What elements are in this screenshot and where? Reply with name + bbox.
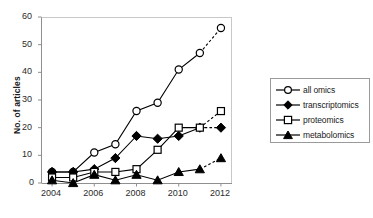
filled-diamond-marker-icon bbox=[275, 98, 301, 112]
open-square-marker-icon bbox=[275, 113, 301, 127]
data-point-marker bbox=[154, 146, 161, 153]
legend-item-transcriptomics[interactable]: transcriptomics bbox=[275, 97, 369, 112]
data-point-marker bbox=[217, 24, 224, 31]
data-point-marker bbox=[175, 124, 182, 131]
y-axis-title: No. of articles bbox=[12, 76, 22, 134]
plot-axes bbox=[42, 17, 233, 184]
x-tick-label: 2012 bbox=[210, 188, 230, 198]
data-point-marker bbox=[196, 49, 203, 56]
caption-strip bbox=[0, 210, 373, 218]
legend-label: all omics bbox=[303, 85, 335, 95]
data-point-marker bbox=[91, 149, 98, 156]
filled-triangle-marker-icon bbox=[275, 128, 301, 142]
data-series-group bbox=[47, 24, 225, 186]
legend-label: proteomics bbox=[303, 115, 344, 125]
y-tick-label: 40 bbox=[22, 66, 32, 76]
open-circle-marker-icon bbox=[275, 83, 301, 97]
y-tick-label: 20 bbox=[22, 122, 32, 132]
data-point-marker bbox=[216, 123, 225, 132]
legend-item-proteomics[interactable]: proteomics bbox=[275, 112, 369, 127]
x-tick-label: 2004 bbox=[41, 188, 61, 198]
x-tick-label: 2010 bbox=[168, 188, 188, 198]
y-axis-ticks bbox=[38, 17, 42, 183]
y-tick-label: 10 bbox=[22, 149, 32, 159]
chart-legend: all omics transcriptomics proteomics met… bbox=[270, 78, 370, 143]
data-point-marker bbox=[154, 99, 161, 106]
data-point-marker bbox=[112, 141, 119, 148]
x-tick-label: 2008 bbox=[126, 188, 146, 198]
legend-item-metabolomics[interactable]: metabolomics bbox=[275, 127, 369, 142]
y-tick-label: 30 bbox=[22, 94, 32, 104]
data-point-marker bbox=[153, 134, 162, 143]
data-point-marker bbox=[133, 107, 140, 114]
data-point-marker bbox=[175, 66, 182, 73]
data-point-marker bbox=[174, 131, 183, 140]
legend-label: transcriptomics bbox=[303, 100, 359, 110]
legend-label: metabolomics bbox=[303, 130, 354, 140]
data-point-marker bbox=[217, 108, 224, 115]
y-tick-label: 0 bbox=[29, 177, 34, 187]
y-tick-label: 50 bbox=[22, 39, 32, 49]
series-all-omics bbox=[48, 24, 224, 175]
legend-item-all-omics[interactable]: all omics bbox=[275, 82, 369, 97]
data-point-marker bbox=[112, 168, 119, 175]
data-point-marker bbox=[196, 124, 203, 131]
data-point-marker bbox=[195, 165, 204, 173]
x-tick-label: 2006 bbox=[83, 188, 103, 198]
y-tick-label: 60 bbox=[22, 11, 32, 21]
data-point-marker bbox=[216, 154, 225, 162]
